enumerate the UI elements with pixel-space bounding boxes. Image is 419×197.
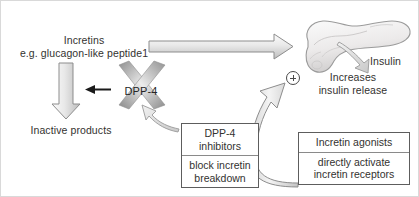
incretin-agonists-body-line2: incretin receptors xyxy=(303,168,405,181)
dpp4-action-arrow xyxy=(85,85,111,94)
dpp4-inhibitors-head-line1: DPP-4 xyxy=(186,127,254,140)
dpp4-inhibitors-body-line2: breakdown xyxy=(186,172,254,185)
diagram-canvas: Incretins e.g. glucagon-like peptide1 In… xyxy=(0,0,419,197)
dpp4-inhibitors-head-line2: inhibitors xyxy=(186,140,254,153)
incretin-degradation-arrow xyxy=(52,63,80,119)
incretins-line1: Incretins xyxy=(9,34,159,47)
inactive-products-label: Inactive products xyxy=(9,124,133,137)
incretin-agonists-head-line1: Incretin agonists xyxy=(303,136,405,149)
dpp4-inhibitors-box: DPP-4 inhibitors block incretin breakdow… xyxy=(181,123,259,188)
stimulation-plus-icon xyxy=(286,71,300,85)
incretin-agonists-box-head: Incretin agonists xyxy=(299,133,409,153)
dpp4-enzyme-label: DPP-4 xyxy=(112,85,170,98)
increases-insulin-release-label: Increases insulin release xyxy=(299,71,407,97)
dpp4-inhibitors-box-body: block incretin breakdown xyxy=(182,156,258,187)
incretin-to-pancreas-arrow xyxy=(149,34,293,59)
incretin-agonists-body-line1: directly activate xyxy=(303,156,405,169)
incretin-agonists-box: Incretin agonists directly activate incr… xyxy=(298,132,410,185)
incretins-line2: e.g. glucagon-like peptide1 xyxy=(9,47,159,60)
incretin-agonists-box-body: directly activate incretin receptors xyxy=(299,153,409,184)
increases-line2: insulin release xyxy=(299,84,407,97)
insulin-label: Insulin xyxy=(370,55,401,68)
increases-line1: Increases xyxy=(299,71,407,84)
dpp4-inhibitors-box-head: DPP-4 inhibitors xyxy=(182,124,258,156)
incretins-label: Incretins e.g. glucagon-like peptide1 xyxy=(9,34,159,59)
dpp4-inhibitors-body-line1: block incretin xyxy=(186,159,254,172)
dpp4-inhibition-arrow xyxy=(142,105,179,132)
